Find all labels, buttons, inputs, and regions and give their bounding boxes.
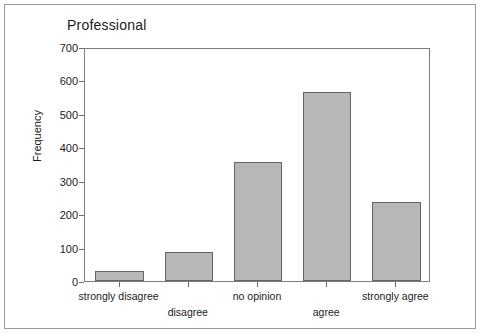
bar (372, 202, 420, 281)
x-tick-mark (257, 282, 258, 287)
y-tick-mark (79, 282, 84, 283)
bar (165, 252, 213, 281)
figure-frame: Professional Frequency 01002003004005006… (4, 4, 476, 329)
y-tick-mark (79, 81, 84, 82)
y-tick-mark (79, 148, 84, 149)
x-axis-label: strongly agree (362, 291, 429, 302)
bar (303, 92, 351, 281)
y-tick-label: 500 (44, 109, 78, 120)
y-tick-mark (79, 182, 84, 183)
y-tick-label: 600 (44, 76, 78, 87)
bar (95, 271, 143, 281)
plot-area (84, 48, 430, 282)
y-tick-mark (79, 115, 84, 116)
y-tick-label: 0 (44, 277, 78, 288)
y-tick-label: 700 (44, 43, 78, 54)
y-tick-label: 100 (44, 243, 78, 254)
y-tick-mark (79, 215, 84, 216)
x-tick-mark (188, 282, 189, 287)
x-axis-label: strongly disagree (79, 291, 159, 302)
x-tick-mark (119, 282, 120, 287)
x-axis-label: no opinion (233, 291, 281, 302)
bars-layer (85, 49, 429, 281)
y-tick-label: 300 (44, 176, 78, 187)
bar (234, 162, 282, 281)
y-tick-mark (79, 249, 84, 250)
y-tick-label: 400 (44, 143, 78, 154)
x-axis-label: disagree (168, 307, 208, 318)
y-tick-mark (79, 48, 84, 49)
y-axis-tick-labels: 0100200300400500600700 (40, 48, 78, 282)
x-axis-label: agree (313, 307, 340, 318)
y-tick-label: 200 (44, 210, 78, 221)
chart-title: Professional (67, 17, 146, 33)
x-tick-mark (395, 282, 396, 287)
x-tick-mark (326, 282, 327, 287)
